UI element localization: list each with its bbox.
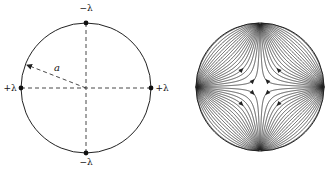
charge-label-left: +λ [3, 83, 17, 93]
charge-left [19, 86, 24, 91]
charge-top [84, 21, 89, 26]
diagram-canvas: a −λ−λ+λ+λ [0, 0, 328, 170]
charge-label-top: −λ [79, 3, 93, 13]
radius-label: a [54, 62, 60, 73]
charge-label-right: +λ [155, 83, 169, 93]
charge-label-bottom: −λ [79, 157, 93, 167]
charge-right [149, 86, 154, 91]
field-lines-figure [196, 23, 324, 151]
charge-configuration-figure: a −λ−λ+λ+λ [3, 3, 169, 167]
field-lines [196, 23, 324, 151]
charge-bottom [84, 151, 89, 156]
